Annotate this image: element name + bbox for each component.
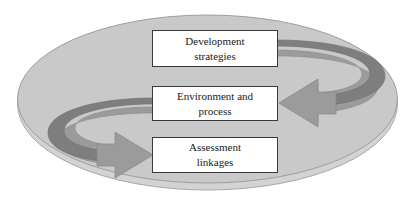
box-development-strategies-line1: Development xyxy=(185,34,244,49)
box-environment-and-process-line1: Environment and xyxy=(177,89,253,104)
box-development-strategies-line2: strategies xyxy=(194,49,236,64)
box-assessment-linkages[interactable]: Assessment linkages xyxy=(152,137,278,173)
box-assessment-linkages-line1: Assessment xyxy=(189,140,241,155)
box-assessment-linkages-line2: linkages xyxy=(197,155,234,170)
diagram-canvas: Development strategies Environment and p… xyxy=(0,0,415,202)
box-development-strategies[interactable]: Development strategies xyxy=(152,30,278,67)
box-environment-and-process-line2: process xyxy=(199,104,232,119)
box-environment-and-process[interactable]: Environment and process xyxy=(152,86,278,121)
